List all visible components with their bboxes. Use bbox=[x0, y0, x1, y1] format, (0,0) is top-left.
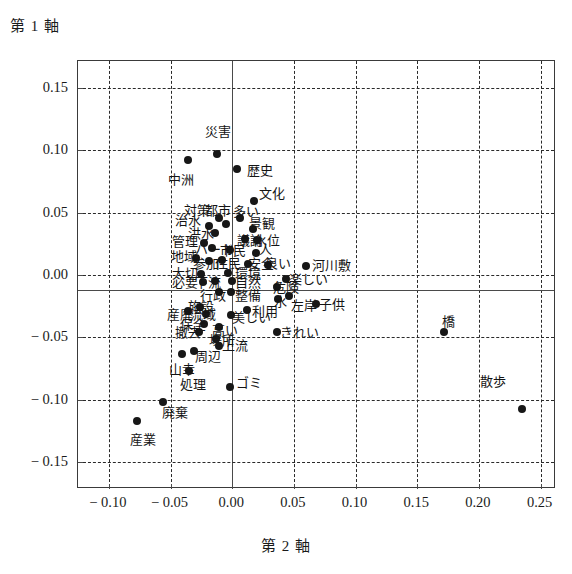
data-point-label: 河川敷 bbox=[312, 259, 351, 272]
x-tick-mark bbox=[356, 484, 357, 489]
x-zero-axis-line bbox=[232, 61, 233, 487]
y-tick-mark bbox=[78, 88, 83, 89]
x-tick-mark bbox=[109, 484, 110, 489]
scatter-plot-figure: 第 1 軸 災害中洲歴史文化対策都市多い治水洪水景観議論水位管理ハード市民人地域… bbox=[0, 0, 572, 574]
data-point bbox=[184, 156, 192, 164]
x-tick-label: 0.25 bbox=[527, 494, 552, 511]
data-point-label: 都市 bbox=[205, 204, 231, 217]
data-point-label: 管理 bbox=[172, 235, 198, 248]
x-tick-mark bbox=[541, 484, 542, 489]
y-tick-mark bbox=[78, 462, 83, 463]
plot-area: 災害中洲歴史文化対策都市多い治水洪水景観議論水位管理ハード市民人地域参加住民安全… bbox=[77, 60, 555, 488]
y-tick-label: 0.15 bbox=[43, 78, 68, 95]
data-point-label: 廃棄 bbox=[162, 406, 188, 419]
data-point-label: 必要 bbox=[172, 276, 198, 289]
y-tick-mark bbox=[78, 150, 83, 151]
data-point-label: 周辺 bbox=[195, 350, 221, 363]
data-point-label: ゴミ bbox=[236, 376, 262, 389]
y-gridline bbox=[78, 88, 554, 89]
x-gridline bbox=[541, 61, 542, 487]
data-point bbox=[133, 417, 141, 425]
x-tick-mark bbox=[232, 484, 233, 489]
x-tick-mark bbox=[171, 484, 172, 489]
x-tick-label: 0.20 bbox=[465, 494, 490, 511]
data-point-label: 整備 bbox=[235, 289, 261, 302]
data-point bbox=[222, 220, 230, 228]
y-tick-label: 0.10 bbox=[43, 141, 68, 158]
x-gridline bbox=[479, 61, 480, 487]
data-point-label: 橋 bbox=[442, 315, 455, 328]
x-tick-label: 0.15 bbox=[404, 494, 429, 511]
x-axis-title: 第 2 軸 bbox=[0, 534, 572, 555]
data-point-label: 歴史 bbox=[247, 164, 273, 177]
data-point bbox=[213, 150, 221, 158]
y-gridline bbox=[78, 462, 554, 463]
x-gridline bbox=[417, 61, 418, 487]
x-tick-mark bbox=[417, 484, 418, 489]
y-axis-title: 第 1 軸 bbox=[10, 14, 60, 35]
data-point bbox=[302, 262, 310, 270]
data-point-label: 撤去 bbox=[175, 326, 201, 339]
data-point bbox=[233, 165, 241, 173]
y-tick-label: 0.05 bbox=[43, 203, 68, 220]
x-gridline bbox=[109, 61, 110, 487]
x-tick-label: − 0.05 bbox=[151, 494, 188, 511]
data-point-label: きれい bbox=[280, 326, 319, 339]
data-point-label: 良い bbox=[265, 257, 291, 270]
data-point-label: 散歩 bbox=[480, 375, 506, 388]
data-point-label: 子供 bbox=[319, 298, 345, 311]
data-point-label: 上流 bbox=[222, 339, 248, 352]
data-point-label: 産業 bbox=[130, 433, 156, 446]
y-zero-axis-line bbox=[78, 290, 554, 291]
data-point-label: 人 bbox=[259, 243, 272, 256]
y-tick-label: − 0.15 bbox=[31, 453, 68, 470]
y-gridline bbox=[78, 213, 554, 214]
data-point-label: 中洲 bbox=[168, 173, 194, 186]
data-point-label: 処理 bbox=[180, 378, 206, 391]
y-tick-mark bbox=[78, 400, 83, 401]
x-tick-mark bbox=[294, 484, 295, 489]
x-tick-label: 0.10 bbox=[342, 494, 367, 511]
y-tick-mark bbox=[78, 275, 83, 276]
x-gridline bbox=[356, 61, 357, 487]
x-tick-label: 0.05 bbox=[280, 494, 305, 511]
y-tick-label: − 0.05 bbox=[31, 328, 68, 345]
data-point bbox=[178, 350, 186, 358]
data-point-label: 美しい bbox=[232, 311, 271, 324]
y-tick-mark bbox=[78, 337, 83, 338]
x-tick-label: 0.00 bbox=[219, 494, 244, 511]
y-tick-label: − 0.10 bbox=[31, 390, 68, 407]
x-tick-mark bbox=[479, 484, 480, 489]
data-point bbox=[440, 328, 448, 336]
data-point bbox=[518, 405, 526, 413]
data-point-label: 災害 bbox=[205, 125, 231, 138]
y-gridline bbox=[78, 400, 554, 401]
y-tick-label: 0.00 bbox=[43, 266, 68, 283]
data-point-label: 景観 bbox=[249, 217, 275, 230]
data-point-label: 文化 bbox=[259, 187, 285, 200]
x-tick-label: − 0.10 bbox=[89, 494, 126, 511]
y-gridline bbox=[78, 150, 554, 151]
y-tick-mark bbox=[78, 213, 83, 214]
